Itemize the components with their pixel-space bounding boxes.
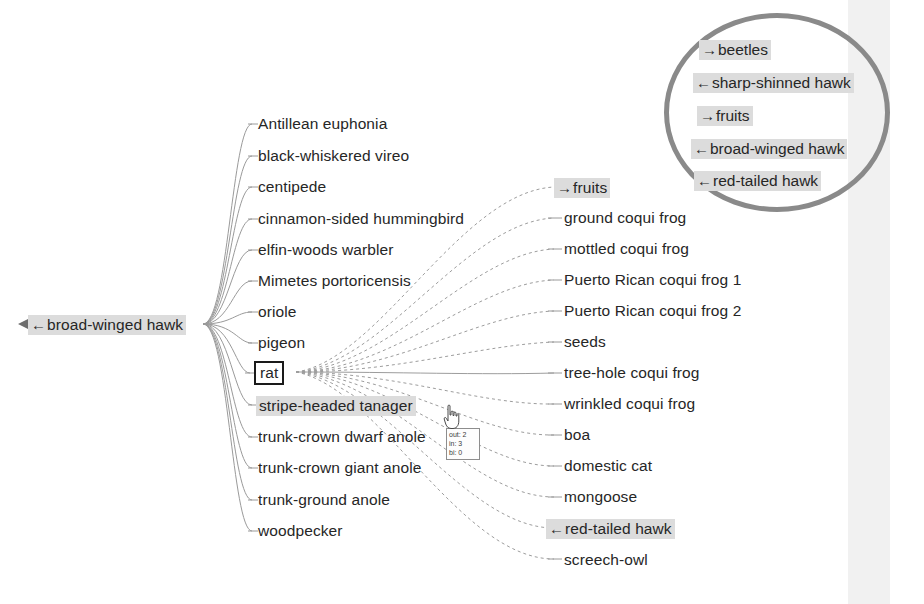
- node-tree-hole-coqui-frog[interactable]: tree-hole coqui frog: [564, 364, 700, 382]
- node-puerto-rican-coqui-frog-1[interactable]: Puerto Rican coqui frog 1: [564, 271, 741, 289]
- node-trunk-crown-giant-anole[interactable]: trunk-crown giant anole: [258, 459, 421, 477]
- node-label-text: fruits: [573, 179, 607, 196]
- node-black-whiskered-vireo[interactable]: black-whiskered vireo: [258, 147, 409, 165]
- node-elfin-woods-warbler[interactable]: elfin-woods warbler: [258, 241, 393, 259]
- node-broad-winged-hawk[interactable]: ←broad-winged hawk: [28, 315, 186, 335]
- ellipse-item-red-tailed-hawk[interactable]: ←red-tailed hawk: [694, 171, 821, 191]
- tooltip-in-degree: in: 3: [449, 439, 477, 448]
- ellipse-item-label: sharp-shinned hawk: [712, 74, 851, 91]
- hand-pointer-cursor: [443, 404, 460, 430]
- degree-tooltip: out: 2 in: 3 bi: 0: [446, 428, 480, 460]
- node-oriole[interactable]: oriole: [258, 303, 297, 321]
- ellipse-item-label: fruits: [716, 107, 750, 124]
- arrow-left-icon: ←: [549, 520, 564, 538]
- node-domestic-cat[interactable]: domestic cat: [564, 457, 652, 475]
- node-ground-coqui-frog[interactable]: ground coqui frog: [564, 209, 686, 227]
- node-fruits[interactable]: →fruits: [554, 178, 610, 198]
- node-trunk-crown-dwarf-anole[interactable]: trunk-crown dwarf anole: [258, 428, 426, 446]
- diagram-canvas: ←broad-winged hawk Antillean euphonia bl…: [0, 0, 924, 604]
- ellipse-item-label: broad-winged hawk: [710, 140, 844, 157]
- node-cinnamon-sided-hummingbird[interactable]: cinnamon-sided hummingbird: [258, 210, 464, 228]
- node-centipede[interactable]: centipede: [258, 178, 326, 196]
- arrow-left-icon: ←: [694, 140, 709, 157]
- node-label-text: red-tailed hawk: [565, 520, 672, 537]
- arrow-left-icon: ←: [696, 74, 711, 91]
- node-stripe-headed-tanager[interactable]: stripe-headed tanager: [256, 396, 416, 416]
- node-wrinkled-coqui-frog[interactable]: wrinkled coqui frog: [564, 395, 695, 413]
- tooltip-out-degree: out: 2: [449, 430, 477, 439]
- tooltip-bi-degree: bi: 0: [449, 448, 477, 457]
- node-mimetes-portoricensis[interactable]: Mimetes portoricensis: [258, 272, 411, 290]
- arrow-right-icon: →: [557, 179, 572, 197]
- arrow-right-icon: →: [700, 107, 715, 124]
- ellipse-item-fruits[interactable]: →fruits: [697, 106, 753, 126]
- node-pigeon[interactable]: pigeon: [258, 334, 305, 352]
- ellipse-item-broad-winged-hawk[interactable]: ←broad-winged hawk: [691, 139, 847, 159]
- ellipse-item-sharp-shinned-hawk[interactable]: ←sharp-shinned hawk: [693, 73, 854, 93]
- node-antillean-euphonia[interactable]: Antillean euphonia: [258, 115, 387, 133]
- arrow-left-icon: ←: [31, 316, 46, 334]
- node-seeds[interactable]: seeds: [564, 333, 606, 351]
- node-red-tailed-hawk[interactable]: ←red-tailed hawk: [546, 519, 675, 539]
- ellipse-item-beetles[interactable]: →beetles: [699, 40, 771, 60]
- ellipse-item-label: beetles: [718, 41, 768, 58]
- ellipse-item-label: red-tailed hawk: [713, 172, 818, 189]
- node-rat-selected[interactable]: rat: [254, 361, 284, 385]
- node-woodpecker[interactable]: woodpecker: [258, 522, 343, 540]
- node-boa[interactable]: boa: [564, 426, 590, 444]
- node-mongoose[interactable]: mongoose: [564, 488, 637, 506]
- node-puerto-rican-coqui-frog-2[interactable]: Puerto Rican coqui frog 2: [564, 302, 741, 320]
- arrow-left-icon: ←: [697, 172, 712, 189]
- node-screech-owl[interactable]: screech-owl: [564, 551, 648, 569]
- node-mottled-coqui-frog[interactable]: mottled coqui frog: [564, 240, 689, 258]
- node-trunk-ground-anole[interactable]: trunk-ground anole: [258, 491, 390, 509]
- node-label-text: broad-winged hawk: [47, 316, 183, 333]
- arrow-right-icon: →: [702, 41, 717, 58]
